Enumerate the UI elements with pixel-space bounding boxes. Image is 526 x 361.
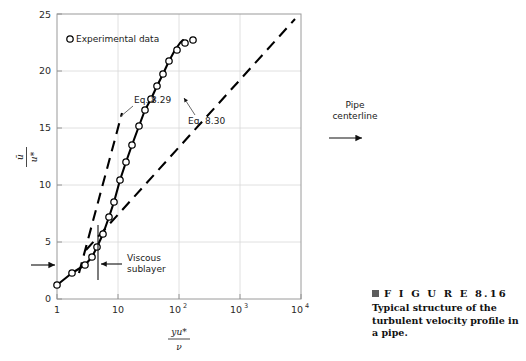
x-tick-10000-base: 10 xyxy=(291,304,303,315)
y-tick-labels: 0 5 10 15 20 25 xyxy=(39,9,51,304)
data-point xyxy=(136,123,142,129)
data-point xyxy=(69,270,75,276)
x-tick-1000-exp: 3 xyxy=(244,302,248,310)
data-markers xyxy=(54,37,196,288)
viscous-sublayer-label-line1: Viscous xyxy=(127,253,161,263)
legend-label: Experimental data xyxy=(76,34,159,44)
x-tick-1: 1 xyxy=(54,304,60,315)
data-point xyxy=(154,83,160,89)
figure-8-16: 0 5 10 15 20 25 1 10 10 2 10 3 10 4 yu* … xyxy=(0,0,526,361)
y-tick-20: 20 xyxy=(39,65,51,76)
y-axis-title: ū u* xyxy=(15,147,39,167)
pipe-centerline-label: Pipe centerline xyxy=(309,100,401,123)
eq-8-29-label: Eq. 8.29 xyxy=(134,95,171,105)
data-point xyxy=(89,254,95,260)
data-point xyxy=(111,199,117,205)
data-point xyxy=(54,282,60,288)
caption-bullet-icon xyxy=(372,290,379,297)
data-point xyxy=(100,231,106,237)
y-tick-0: 0 xyxy=(45,293,51,304)
legend-marker-icon xyxy=(67,36,73,42)
eq-8-29-leader xyxy=(120,106,133,117)
data-point xyxy=(160,71,166,77)
y-tick-15: 15 xyxy=(39,122,51,133)
y-tickmarks xyxy=(57,14,62,299)
data-point xyxy=(182,40,188,46)
figure-caption: F I G U R E 8.16 Typical structure of th… xyxy=(372,288,520,340)
data-point xyxy=(117,177,123,183)
y-axis-denominator: u* xyxy=(29,151,39,162)
x-tick-100-exp: 2 xyxy=(183,302,187,310)
x-axis-numerator: yu* xyxy=(170,327,187,337)
data-point xyxy=(190,37,196,43)
data-point xyxy=(174,47,180,53)
data-point xyxy=(123,159,129,165)
y-tick-25: 25 xyxy=(39,9,51,20)
eq-8-30-label: Eq. 8.30 xyxy=(188,116,225,126)
data-point xyxy=(106,214,112,220)
caption-body-text: Typical structure of the turbulent veloc… xyxy=(372,302,520,340)
x-tick-labels: 1 10 10 2 10 3 10 4 xyxy=(54,302,309,315)
data-point xyxy=(82,262,88,268)
x-tick-10000-exp: 4 xyxy=(305,302,309,310)
caption-heading: F I G U R E 8.16 xyxy=(372,288,520,299)
x-axis-title: yu* ν xyxy=(168,327,190,352)
eq-8-30-leader xyxy=(184,98,195,115)
x-axis-denominator: ν xyxy=(176,342,182,352)
data-point xyxy=(166,58,172,64)
viscous-sublayer-label-line2: sublayer xyxy=(127,264,166,274)
x-tick-10: 10 xyxy=(112,304,124,315)
data-point xyxy=(94,244,100,250)
data-point xyxy=(142,107,148,113)
x-tick-1000-base: 10 xyxy=(230,304,242,315)
eq-8-30-dashed-line xyxy=(86,19,295,250)
y-tick-5: 5 xyxy=(45,236,51,247)
x-tick-100-base: 10 xyxy=(169,304,181,315)
data-point xyxy=(129,142,135,148)
pipe-centerline-annotation: Pipe centerline xyxy=(309,100,401,123)
y-tick-10: 10 xyxy=(39,179,51,190)
caption-heading-text: F I G U R E 8.16 xyxy=(384,288,508,299)
x-tickmarks xyxy=(57,294,301,299)
y-axis-numerator: ū xyxy=(15,154,25,160)
